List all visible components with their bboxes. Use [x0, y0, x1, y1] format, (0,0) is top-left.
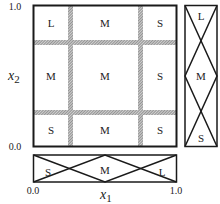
- x1-axis-label: x1: [99, 187, 112, 204]
- x2-set-L: L: [198, 10, 205, 22]
- cell-2-1: M: [100, 124, 110, 136]
- x1-membership-functions: S M L: [34, 155, 177, 182]
- x2-axis-label: x2: [7, 68, 20, 85]
- x2-membership-functions: L M S: [185, 6, 217, 147]
- vertical-band-2: [138, 6, 143, 146]
- x1-set-L: L: [159, 166, 166, 178]
- x1-max-label: 1.0: [170, 185, 183, 196]
- horizontal-band-2: [34, 110, 176, 115]
- x1-set-M: M: [100, 164, 110, 176]
- x1-min-label: 0.0: [27, 185, 40, 196]
- grid-cell-labels: L M S M M S S M S: [46, 17, 163, 136]
- cell-1-1: M: [100, 70, 110, 82]
- cell-2-2: S: [157, 124, 163, 136]
- cell-0-1: M: [100, 17, 110, 29]
- x2-set-M: M: [196, 70, 206, 82]
- vertical-band-1: [68, 6, 73, 146]
- cell-0-2: S: [157, 17, 163, 29]
- cell-2-0: S: [48, 124, 54, 136]
- cell-1-0: M: [46, 70, 56, 82]
- x2-set-S: S: [198, 132, 204, 144]
- horizontal-band-1: [34, 40, 176, 45]
- x1-set-S: S: [45, 166, 51, 178]
- fuzzy-grid-diagram: L M S M M S S M S 1.0 0.0 x2 L M S S M L…: [0, 0, 220, 204]
- cell-1-2: S: [157, 70, 163, 82]
- x2-max-label: 1.0: [9, 1, 22, 12]
- cell-0-0: L: [48, 17, 55, 29]
- x2-min-label: 0.0: [9, 141, 22, 152]
